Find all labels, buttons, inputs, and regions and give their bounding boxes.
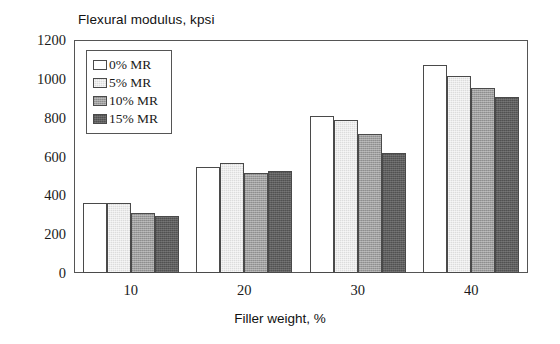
legend-item: 15% MR	[93, 110, 165, 128]
x-axis-tick-label: 30	[328, 282, 388, 299]
legend-label: 10% MR	[109, 93, 158, 109]
legend-label: 0% MR	[109, 57, 151, 73]
y-axis-tick-label: 1000	[0, 70, 66, 87]
bar	[471, 88, 495, 273]
y-axis-tick-label: 0	[0, 265, 66, 282]
y-axis-tick-label: 200	[0, 226, 66, 243]
y-axis-tick-label: 800	[0, 109, 66, 126]
legend-swatch-icon	[93, 114, 107, 124]
legend-swatch-icon	[93, 60, 107, 70]
bar	[220, 163, 244, 273]
chart-legend: 0% MR5% MR10% MR15% MR	[86, 50, 172, 134]
bar	[244, 173, 268, 273]
bar	[131, 213, 155, 273]
bar-chart-figure: Flexural modulus, kpsi 02004006008001000…	[0, 0, 560, 344]
x-axis-tick-label: 10	[101, 282, 161, 299]
legend-item: 0% MR	[93, 56, 165, 74]
legend-item: 5% MR	[93, 74, 165, 92]
bar	[358, 134, 382, 273]
y-axis-tick-label: 400	[0, 187, 66, 204]
legend-label: 5% MR	[109, 75, 151, 91]
legend-label: 15% MR	[109, 111, 158, 127]
bar	[196, 167, 220, 273]
x-axis-tick-label: 20	[214, 282, 274, 299]
bar	[83, 203, 107, 273]
x-axis-title: Filler weight, %	[0, 311, 560, 326]
y-axis-title: Flexural modulus, kpsi	[78, 12, 215, 27]
bar	[423, 65, 447, 273]
bar	[447, 76, 471, 273]
legend-item: 10% MR	[93, 92, 165, 110]
legend-swatch-icon	[93, 78, 107, 88]
bar	[268, 171, 292, 273]
bar	[382, 153, 406, 273]
bar	[495, 97, 519, 273]
y-axis-tick-label: 1200	[0, 32, 66, 49]
bar	[334, 120, 358, 273]
legend-swatch-icon	[93, 96, 107, 106]
bar	[107, 203, 131, 273]
x-axis-tick-label: 40	[441, 282, 501, 299]
bar	[155, 216, 179, 273]
bar	[310, 116, 334, 273]
y-axis-tick-label: 600	[0, 148, 66, 165]
